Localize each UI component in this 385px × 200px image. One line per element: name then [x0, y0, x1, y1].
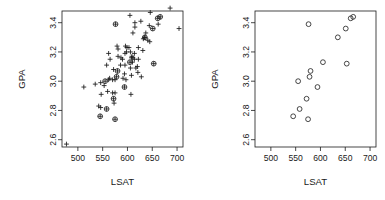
data-point-plus — [140, 48, 145, 53]
data-point-plus — [131, 31, 136, 36]
scatter-plot-figure: 5005506006507002.62.83.03.23.4LSATGPA 50… — [0, 0, 385, 200]
right-y-axis-title: GPA — [209, 69, 220, 89]
data-point-plus — [105, 89, 110, 94]
left-series-population — [64, 6, 181, 147]
data-point-plus — [110, 90, 115, 95]
x-tick-label: 600 — [120, 153, 135, 163]
data-point-circle — [306, 22, 311, 27]
data-point-plus — [93, 82, 98, 87]
y-tick-label: 3.0 — [241, 75, 251, 87]
right-plot-svg: 5005506006507002.62.83.03.23.4LSATGPA — [193, 0, 385, 200]
right-plot-frame — [255, 11, 376, 147]
data-point-circle — [296, 79, 301, 84]
panel-left-population-and-sample: 5005506006507002.62.83.03.23.4LSATGPA — [0, 0, 192, 200]
data-point-plus — [128, 66, 133, 71]
data-point-plus — [122, 71, 127, 76]
data-point-circle — [343, 26, 348, 31]
data-point-plus — [177, 26, 182, 31]
data-point-plus — [115, 44, 120, 49]
data-point-circle — [306, 117, 311, 122]
x-tick-label: 700 — [363, 153, 378, 163]
left-y-axis-title: GPA — [16, 69, 27, 89]
data-point-plus — [168, 6, 173, 11]
data-point-circle — [315, 85, 320, 90]
data-point-plus — [133, 20, 138, 25]
y-tick-label: 3.4 — [241, 17, 251, 29]
data-point-circle — [297, 107, 302, 112]
data-point-plus — [123, 63, 128, 68]
y-tick-label: 3.4 — [48, 17, 58, 29]
data-point-plus — [156, 22, 161, 27]
data-point-plus — [136, 45, 141, 50]
x-tick-label: 650 — [145, 153, 160, 163]
data-point-circle — [335, 35, 340, 40]
data-point-plus — [116, 47, 121, 52]
left-x-axis: 500550600650700 — [71, 147, 185, 163]
x-tick-label: 700 — [170, 153, 185, 163]
data-point-plus — [138, 19, 143, 24]
left-x-axis-title: LSAT — [111, 176, 134, 187]
data-point-plus — [64, 142, 69, 147]
data-point-plus — [99, 92, 104, 97]
data-point-plus — [128, 13, 133, 18]
y-tick-label: 2.6 — [241, 133, 251, 145]
x-tick-label: 550 — [95, 153, 110, 163]
y-tick-label: 3.2 — [48, 46, 58, 58]
x-tick-label: 550 — [288, 153, 303, 163]
left-y-axis: 2.62.83.03.23.4 — [48, 17, 62, 146]
y-tick-label: 3.2 — [241, 46, 251, 58]
x-tick-label: 600 — [313, 153, 328, 163]
data-point-plus — [81, 85, 86, 90]
data-point-circle — [344, 61, 349, 66]
data-point-circle — [307, 74, 312, 79]
data-point-plus — [104, 63, 109, 68]
data-point-circle — [321, 60, 326, 65]
y-tick-label: 2.8 — [241, 104, 251, 116]
data-point-circle — [291, 114, 296, 119]
data-point-plus — [118, 63, 123, 68]
left-plot-frame — [62, 11, 183, 147]
y-tick-label: 2.6 — [48, 133, 58, 145]
right-series-sample — [291, 14, 356, 121]
x-tick-label: 500 — [264, 153, 279, 163]
right-x-axis: 500550600650700 — [264, 147, 378, 163]
left-plot-svg: 5005506006507002.62.83.03.23.4LSATGPA — [0, 0, 192, 200]
data-point-plus — [108, 57, 113, 62]
data-point-plus — [133, 25, 138, 30]
y-tick-label: 2.8 — [48, 104, 58, 116]
panel-right-sample-only: 5005506006507002.62.83.03.23.4LSATGPA — [193, 0, 385, 200]
right-x-axis-title: LSAT — [304, 176, 327, 187]
data-point-plus — [135, 70, 140, 75]
data-point-plus — [106, 51, 111, 56]
data-point-circle — [308, 69, 313, 74]
right-y-axis: 2.62.83.03.23.4 — [241, 17, 255, 146]
data-point-plus — [129, 73, 134, 78]
x-tick-label: 500 — [71, 153, 86, 163]
y-tick-label: 3.0 — [48, 75, 58, 87]
data-point-circle — [304, 96, 309, 101]
data-point-plus — [129, 92, 134, 97]
data-point-plus — [139, 74, 144, 79]
x-tick-label: 650 — [338, 153, 353, 163]
